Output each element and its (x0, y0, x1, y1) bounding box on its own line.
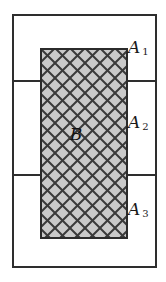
region-label-a3-subscript: 3 (142, 208, 149, 219)
event-label-b: B (70, 126, 83, 143)
cross-hatch-pattern (40, 48, 128, 239)
region-label-a1-subscript: 1 (142, 46, 149, 57)
region-label-a1: A1 (128, 39, 149, 57)
region-label-a2-subscript: 2 (142, 121, 149, 132)
region-label-a1-text: A (128, 37, 141, 57)
region-label-a3: A3 (128, 201, 149, 219)
event-b-rectangle (40, 48, 128, 239)
region-label-a2-text: A (128, 112, 141, 132)
region-label-a2: A2 (128, 114, 149, 132)
partition-diagram: A1 A2 A3 B (0, 0, 166, 282)
region-label-a3-text: A (128, 199, 141, 219)
